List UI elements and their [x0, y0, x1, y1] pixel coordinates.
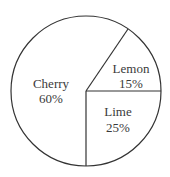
pie-chart: Cherry 60% Lemon 15% Lime 25%: [0, 0, 170, 177]
slice-value-lemon: 15%: [119, 76, 143, 91]
slice-label-cherry: Cherry: [33, 76, 70, 91]
slice-value-cherry: 60%: [39, 91, 63, 106]
slice-value-lime: 25%: [106, 120, 130, 135]
slice-label-lemon: Lemon: [113, 61, 150, 76]
slice-lime: Lime 25%: [104, 104, 132, 135]
slice-label-lime: Lime: [104, 104, 132, 119]
